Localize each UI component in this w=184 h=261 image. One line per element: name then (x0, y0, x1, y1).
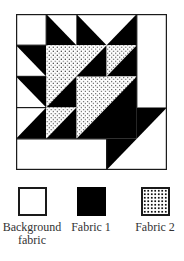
legend-item-fabric1: Fabric 1 (66, 187, 116, 234)
quilt-block-svg (16, 14, 167, 170)
legend-label: Fabric 1 (66, 221, 116, 234)
legend: Background fabric Fabric 1 Fabric 2 (0, 187, 184, 257)
fabric2-swatch (141, 187, 170, 216)
fabric1-swatch (77, 187, 106, 216)
legend-item-fabric2: Fabric 2 (128, 187, 182, 234)
legend-item-background: Background fabric (2, 187, 62, 247)
legend-label-line1: Background (3, 220, 62, 234)
background-fabric-swatch (18, 187, 47, 216)
legend-label: Background fabric (2, 221, 62, 247)
quilt-block-diagram (16, 14, 167, 170)
legend-label: Fabric 2 (128, 221, 182, 234)
legend-label-line2: fabric (18, 233, 46, 247)
